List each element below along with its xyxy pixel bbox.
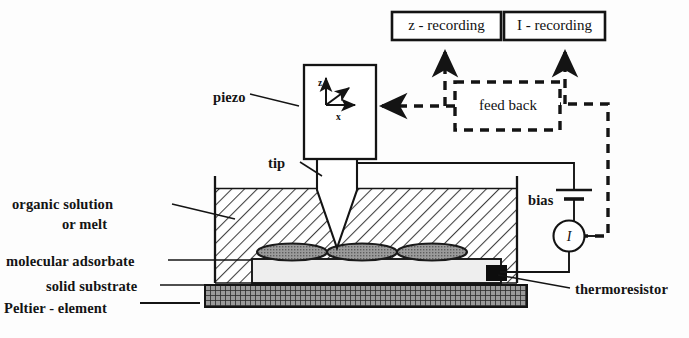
current-to-feedback-signal [560,104,608,236]
i-recording-label: I - recording [506,17,603,34]
tip-to-bias-wire [357,163,574,190]
molecular-adsorbate-layer [257,244,467,261]
piezo-axis-y-label: y [344,99,349,109]
feed-back-label: feed back [462,97,554,114]
piezo-axis-x-label: x [336,112,341,122]
piezo-axis-z-label: z [318,78,322,88]
solid-substrate-label: solid substrate [46,278,137,295]
thermoresistor-block [486,265,507,281]
current-meter-label: I [562,229,576,245]
piezo-label: piezo [213,89,246,106]
bias-label: bias [528,192,553,209]
peltier-element [205,285,527,307]
piezo-leader-line [250,94,299,106]
solid-substrate [252,259,501,283]
thermoresistor-label: thermoresistor [575,281,668,298]
or-melt-label: or melt [62,216,107,233]
z-recording-label: z - recording [395,17,498,34]
tip-label: tip [268,155,285,172]
molecular-adsorbate-label: molecular adsorbate [6,253,135,270]
peltier-element-label: Peltier - element [4,300,107,317]
organic-solution-label: organic solution [12,196,113,213]
diagram-canvas: piezo tip organic solution or melt molec… [0,0,689,338]
